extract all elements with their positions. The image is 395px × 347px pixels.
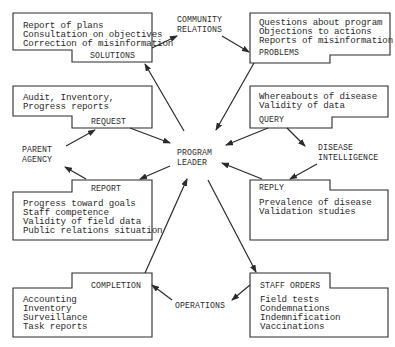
staff-orders-item: Vaccinations — [260, 322, 324, 332]
request-item: Progress reports — [23, 102, 109, 112]
disease-intelligence-label-1: DISEASE — [318, 143, 353, 153]
request-title: REQUEST — [91, 117, 126, 127]
solutions-title: SOLUTIONS — [90, 51, 135, 61]
parent-agency-label-1: PARENT — [22, 145, 52, 155]
report-title: REPORT — [91, 184, 121, 194]
completion-item: Task reports — [23, 322, 87, 332]
program-leader-label-2: LEADER — [177, 158, 207, 168]
disease-intelligence-label-2: INTELLIGENCE — [318, 153, 378, 163]
program-leader-label-1: PROGRAM — [177, 148, 212, 158]
community-relations-label-2: RELATIONS — [177, 25, 222, 35]
query-item: Validity of data — [259, 101, 345, 111]
parent-agency-label-2: AGENCY — [22, 155, 52, 165]
report-item: Public relations situation — [23, 226, 162, 236]
operations-label: OPERATIONS — [175, 301, 225, 311]
community-relations-label-1: COMMUNITY — [177, 15, 222, 25]
completion-title: COMPLETION — [91, 281, 141, 291]
problems-item: Reports of misinformation — [259, 36, 393, 46]
reply-item: Validation studies — [259, 207, 356, 217]
query-title: QUERY — [259, 115, 284, 125]
problems-title: PROBLEMS — [259, 48, 299, 58]
staff-orders-title: STAFF ORDERS — [260, 281, 320, 291]
reply-title: REPLY — [259, 183, 284, 193]
solutions-item: Correction of misinformation — [23, 39, 173, 49]
